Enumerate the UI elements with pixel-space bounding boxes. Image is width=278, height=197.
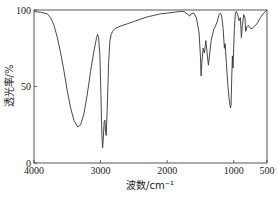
- y-axis-label: 透光率/%: [3, 65, 15, 108]
- x-tick-label: 1000: [224, 165, 244, 176]
- y-tick-label: 50: [21, 81, 31, 92]
- ir-spectrum-chart: 4000300020001000500 050100 波数/cm⁻¹ 透光率/%: [0, 0, 278, 197]
- x-tick-label: 3000: [91, 165, 111, 176]
- x-tick-label: 2000: [157, 165, 177, 176]
- plot-border: [34, 10, 267, 163]
- plot-frame: [34, 10, 267, 163]
- y-tick-label: 100: [16, 5, 31, 16]
- x-tick-label: 500: [260, 165, 275, 176]
- spectrum-line: [34, 10, 267, 148]
- x-axis-label: 波数/cm⁻¹: [126, 179, 174, 191]
- x-axis-ticks: 4000300020001000500: [24, 160, 275, 176]
- y-tick-label: 0: [26, 158, 31, 169]
